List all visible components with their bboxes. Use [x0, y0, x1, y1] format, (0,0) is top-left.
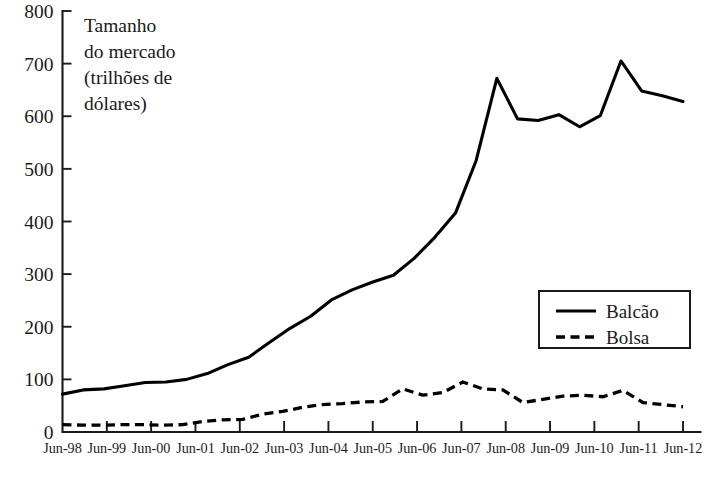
x-tick-label-Jun-04: Jun-04	[309, 440, 348, 456]
x-tick-label-Jun-99: Jun-99	[88, 440, 127, 456]
x-tick-label-Jun-05: Jun-05	[353, 440, 392, 456]
x-tick-label-Jun-98: Jun-98	[43, 440, 82, 456]
y-axis-title-line-3: dólares)	[84, 93, 147, 115]
x-tick-label-Jun-03: Jun-03	[265, 440, 304, 456]
y-axis-title: Tamanhodo mercado(trilhões dedólares)	[84, 15, 176, 115]
x-tick-label-Jun-06: Jun-06	[398, 440, 437, 456]
x-axis-tick-labels: Jun-98Jun-99Jun-00Jun-01Jun-02Jun-03Jun-…	[43, 440, 702, 456]
x-tick-label-Jun-09: Jun-09	[531, 440, 570, 456]
y-axis-tick-labels: 0100200300400500600700800	[24, 1, 53, 443]
y-tick-label-800: 800	[24, 1, 53, 22]
x-tick-label-Jun-01: Jun-01	[176, 440, 215, 456]
x-tick-label-Jun-02: Jun-02	[220, 440, 259, 456]
chart-container: 0100200300400500600700800 Jun-98Jun-99Ju…	[0, 0, 717, 478]
y-tick-label-600: 600	[24, 106, 53, 127]
x-tick-label-Jun-11: Jun-11	[620, 440, 658, 456]
y-axis-title-line-1: do mercado	[84, 41, 176, 62]
y-axis-title-line-2: (trilhões de	[84, 67, 172, 89]
x-tick-label-Jun-12: Jun-12	[664, 440, 703, 456]
y-tick-label-700: 700	[24, 54, 53, 75]
y-axis-title-line-0: Tamanho	[84, 15, 156, 36]
y-tick-label-300: 300	[24, 264, 53, 285]
x-tick-label-Jun-00: Jun-00	[132, 440, 171, 456]
legend-label-bolsa: Bolsa	[606, 327, 650, 348]
legend-label-balcao: Balcão	[606, 301, 659, 322]
x-tick-label-Jun-07: Jun-07	[442, 440, 481, 456]
y-tick-label-500: 500	[24, 159, 53, 180]
x-tick-label-Jun-08: Jun-08	[486, 440, 525, 456]
y-axis-ticks	[63, 11, 72, 379]
chart-legend: Balcão Bolsa	[539, 291, 690, 348]
y-tick-label-100: 100	[24, 369, 53, 390]
line-chart: 0100200300400500600700800 Jun-98Jun-99Ju…	[0, 0, 717, 478]
series-line-bolsa	[63, 382, 684, 425]
y-tick-label-200: 200	[24, 317, 53, 338]
x-tick-label-Jun-10: Jun-10	[575, 440, 614, 456]
y-tick-label-400: 400	[24, 212, 53, 233]
